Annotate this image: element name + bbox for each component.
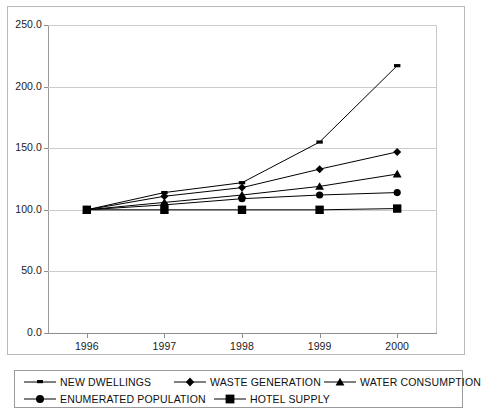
- square-marker-icon: [213, 392, 247, 406]
- x-tick-label: 1997: [134, 340, 194, 352]
- legend-label: NEW DWELLINGS: [60, 376, 151, 388]
- legend-label: ENUMERATED POPULATION: [60, 393, 206, 405]
- x-tick-label: 1999: [290, 340, 350, 352]
- legend-label: WATER CONSUMPTION: [360, 376, 481, 388]
- y-tick-mark: [44, 271, 48, 272]
- x-tick-mark: [164, 333, 165, 338]
- triangle-marker-icon: [323, 375, 357, 389]
- diamond-marker-icon: [173, 375, 207, 389]
- y-tick-mark: [44, 87, 48, 88]
- gridline: [48, 271, 437, 272]
- gridline: [48, 210, 437, 211]
- y-tick-mark: [44, 25, 48, 26]
- gridline: [48, 25, 437, 26]
- legend-row-1: NEW DWELLINGS WASTE GENERATION: [15, 373, 462, 391]
- x-tick-label: 2000: [367, 340, 427, 352]
- y-axis-line: [48, 25, 49, 334]
- legend-entry-waste-generation[interactable]: WASTE GENERATION: [173, 373, 321, 391]
- y-tick-label: 200.0: [0, 80, 42, 92]
- plot-border-right: [436, 25, 437, 334]
- legend-entry-new-dwellings[interactable]: NEW DWELLINGS: [23, 373, 151, 391]
- x-tick-mark: [242, 333, 243, 338]
- legend-entry-hotel-supply[interactable]: HOTEL SUPPLY: [213, 390, 330, 408]
- legend-entry-enumerated-population[interactable]: ENUMERATED POPULATION: [23, 390, 206, 408]
- y-tick-mark: [44, 210, 48, 211]
- legend-label: WASTE GENERATION: [210, 376, 321, 388]
- legend-row-2: ENUMERATED POPULATION HOTEL SUPPLY: [15, 390, 462, 408]
- y-tick-mark: [44, 333, 48, 334]
- y-tick-mark: [44, 148, 48, 149]
- y-tick-label: 100.0: [0, 203, 42, 215]
- y-tick-label: 0.0: [0, 326, 42, 338]
- y-tick-label: 50.0: [0, 264, 42, 276]
- y-tick-label: 250.0: [0, 18, 42, 30]
- gridline: [48, 87, 437, 88]
- y-tick-label: 150.0: [0, 141, 42, 153]
- x-tick-mark: [320, 333, 321, 338]
- x-tick-mark: [87, 333, 88, 338]
- circle-marker-icon: [23, 392, 57, 406]
- chart-legend: NEW DWELLINGS WASTE GENERATION: [14, 370, 463, 408]
- x-tick-label: 1996: [57, 340, 117, 352]
- x-tick-mark: [397, 333, 398, 338]
- dash-marker-icon: [23, 375, 57, 389]
- x-tick-label: 1998: [212, 340, 272, 352]
- legend-entry-water-consumption[interactable]: WATER CONSUMPTION: [323, 373, 481, 391]
- chart-frame: [7, 6, 465, 355]
- gridline: [48, 148, 437, 149]
- legend-label: HOTEL SUPPLY: [250, 393, 330, 405]
